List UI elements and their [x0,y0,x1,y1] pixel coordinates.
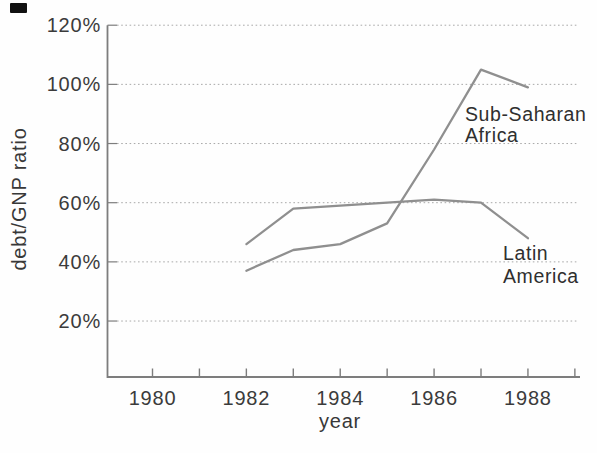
line-chart: 120%100%80%60%40%20%19801982198419861988… [0,0,597,453]
x-tick-label: 1984 [316,387,364,409]
x-tick-label: 1982 [223,387,271,409]
y-axis-title: debt/GNP ratio [8,127,30,270]
chart-generated-layer: 120%100%80%60%40%20%19801982198419861988 [47,14,580,409]
y-tick-label: 100% [47,73,101,95]
axes [108,25,581,377]
x-tick-label: 1988 [504,387,552,409]
series-line-sub-saharan-africa [246,70,528,271]
y-tick-label: 120% [47,14,101,36]
y-tick-label: 60% [59,192,101,214]
debt-gnp-ratio-figure: 120%100%80%60%40%20%19801982198419861988… [0,0,597,453]
y-tick-label: 80% [59,133,101,155]
x-axis-title: year [319,410,361,432]
y-tick-label: 20% [59,310,101,332]
series-label-latin-america: Latin America [503,242,579,287]
series-label-sub-saharan-africa: Sub-Saharan Africa [465,103,593,146]
x-tick-label: 1980 [129,387,177,409]
y-tick-label: 40% [59,251,101,273]
x-tick-label: 1986 [410,387,458,409]
